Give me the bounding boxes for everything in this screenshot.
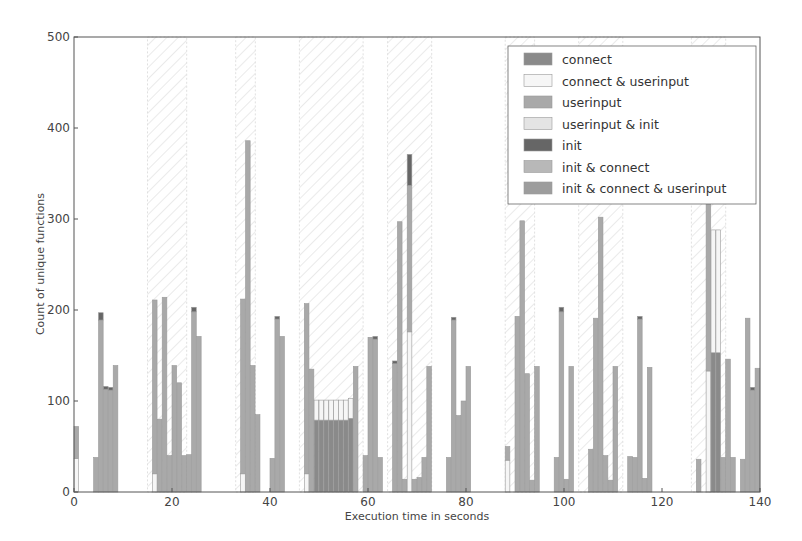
bar-segment — [152, 300, 157, 474]
bar-segment — [373, 336, 378, 339]
bar-segment — [559, 307, 564, 312]
y-axis-title: Count of unique functions — [34, 193, 47, 335]
x-tick-label: 0 — [70, 495, 78, 509]
bar-segment — [466, 366, 471, 492]
bar-segment — [241, 474, 246, 492]
bar-segment — [638, 316, 643, 319]
x-tick-label: 40 — [262, 495, 277, 509]
bar-segment — [324, 400, 329, 420]
bar-segment — [417, 477, 422, 492]
y-tick-label: 300 — [47, 212, 70, 226]
legend-label: init & connect — [562, 160, 649, 175]
bar-segment — [187, 455, 192, 492]
bar-segment — [750, 390, 755, 492]
bar-segment — [559, 312, 564, 492]
bar-segment — [451, 317, 456, 320]
bar-segment — [344, 420, 349, 492]
y-axis: 0100200300400500 — [47, 30, 78, 499]
legend-label: userinput — [562, 95, 622, 110]
bar-segment — [525, 374, 530, 492]
bar-segment — [319, 400, 324, 420]
bar-segment — [339, 400, 344, 420]
bar-segment — [613, 366, 618, 492]
bar-segment — [348, 418, 353, 492]
bar-segment — [740, 459, 745, 492]
legend-swatch — [524, 161, 552, 173]
x-axis-title: Execution time in seconds — [345, 510, 490, 523]
bar-segment — [726, 359, 731, 492]
bar-segment — [755, 368, 760, 492]
bar-segment — [456, 416, 461, 492]
bar-segment — [461, 401, 466, 492]
bar-segment — [505, 460, 510, 492]
bar-segment — [564, 479, 569, 492]
y-tick-label: 0 — [62, 485, 70, 499]
bar-segment — [74, 458, 79, 492]
stacked-bar-chart: 0100200300400500 020406080100120140 Exec… — [0, 0, 802, 541]
bar-segment — [74, 426, 79, 458]
bar-segment — [706, 371, 711, 492]
bar-segment — [569, 366, 574, 492]
legend-label: connect — [562, 52, 612, 67]
y-tick-label: 100 — [47, 394, 70, 408]
bar-segment — [407, 154, 412, 185]
bar-segment — [638, 319, 643, 492]
bar-segment — [598, 217, 603, 492]
legend-swatch — [524, 53, 552, 65]
bar-segment — [99, 320, 104, 492]
bar-segment — [711, 353, 716, 492]
y-tick-label: 200 — [47, 303, 70, 317]
bar-segment — [642, 478, 647, 492]
bar-segment — [554, 457, 559, 492]
bar-segment — [324, 420, 329, 492]
bar-segment — [407, 185, 412, 332]
bar-segment — [275, 316, 280, 319]
bar-segment — [246, 141, 251, 492]
bar-segment — [314, 400, 319, 420]
bar-segment — [192, 312, 197, 492]
bar-segment — [108, 387, 113, 390]
legend-swatch — [524, 75, 552, 87]
bar-segment — [348, 398, 353, 418]
x-tick-label: 20 — [164, 495, 179, 509]
bar-segment — [593, 318, 598, 492]
legend: connectconnect & userinputuserinputuseri… — [508, 46, 756, 204]
bar-segment — [716, 230, 721, 353]
bar-segment — [378, 457, 383, 492]
bar-segment — [446, 457, 451, 492]
bar-segment — [716, 353, 721, 492]
bar-segment — [368, 337, 373, 492]
bar-segment — [402, 479, 407, 492]
bar-segment — [192, 307, 197, 312]
bar-segment — [422, 457, 427, 492]
bar-segment — [177, 383, 182, 492]
bar-segment — [412, 479, 417, 492]
bar-segment — [157, 419, 162, 492]
bar-segment — [113, 366, 118, 492]
legend-swatch — [524, 182, 552, 194]
bar-segment — [603, 456, 608, 492]
bar-segment — [309, 369, 314, 492]
bar-segment — [250, 366, 255, 492]
bar-segment — [255, 415, 260, 492]
bar-segment — [103, 386, 108, 389]
bar-segment — [353, 366, 358, 492]
bar-segment — [608, 480, 613, 492]
bar-segment — [329, 400, 334, 420]
bar-segment — [275, 319, 280, 492]
bar-segment — [451, 320, 456, 492]
bar-segment — [696, 459, 701, 492]
bar-segment — [182, 456, 187, 492]
bar-segment — [407, 332, 412, 492]
bar-segment — [162, 297, 167, 492]
bar-segment — [731, 457, 736, 492]
bar-segment — [706, 201, 711, 371]
bar-segment — [108, 390, 113, 492]
legend-label: userinput & init — [562, 117, 659, 132]
bar-segment — [329, 420, 334, 492]
bar-segment — [94, 457, 99, 492]
bar-segment — [633, 457, 638, 492]
bar-segment — [304, 304, 309, 474]
bar-segment — [373, 339, 378, 492]
bar-segment — [515, 316, 520, 492]
